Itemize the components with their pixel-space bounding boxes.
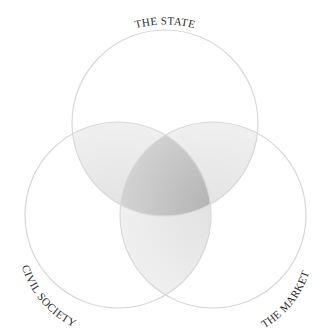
venn-diagram: THE STATE CIVIL SOCIETY THE MARKET: [0, 0, 329, 335]
label-the-state: THE STATE: [133, 14, 196, 30]
label-the-market: THE MARKET: [259, 269, 311, 330]
label-civil-society: CIVIL SOCIETY: [20, 263, 79, 329]
